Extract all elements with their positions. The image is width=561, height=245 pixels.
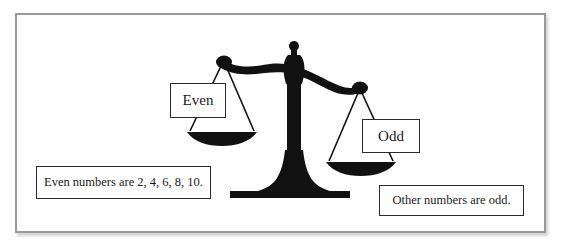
scale-finial-neck bbox=[291, 49, 297, 57]
odd-numbers-note-text: Other numbers are odd. bbox=[392, 193, 510, 208]
scale-left-knob bbox=[216, 56, 232, 69]
scale-base bbox=[230, 191, 350, 198]
even-numbers-note: Even numbers are 2, 4, 6, 8, 10. bbox=[36, 166, 211, 199]
scale-right-pan bbox=[326, 162, 396, 176]
odd-pan-label-text: Odd bbox=[378, 128, 404, 145]
scale-foot bbox=[258, 150, 330, 191]
even-pan-label: Even bbox=[170, 83, 226, 118]
even-pan-label-text: Even bbox=[183, 92, 214, 109]
even-numbers-note-text: Even numbers are 2, 4, 6, 8, 10. bbox=[44, 175, 203, 190]
scale-right-knob bbox=[352, 82, 368, 95]
scale-left-string-b bbox=[226, 66, 254, 131]
scale-post bbox=[287, 80, 301, 155]
odd-pan-label: Odd bbox=[362, 119, 420, 153]
scale-right-string-a bbox=[329, 93, 358, 161]
odd-numbers-note: Other numbers are odd. bbox=[379, 185, 524, 216]
scale-left-pan bbox=[187, 132, 257, 146]
